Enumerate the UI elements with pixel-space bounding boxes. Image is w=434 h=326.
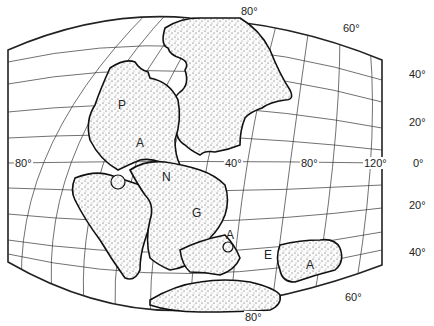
top-label: 80° <box>240 5 259 17</box>
continent-letter: A <box>306 258 314 272</box>
continent-letter: E <box>264 248 272 262</box>
longitude-label: 120° <box>363 157 388 169</box>
latitude-label: 40° <box>408 246 427 258</box>
longitude-label: 80° <box>300 157 319 169</box>
bottom-label: 60° <box>344 291 363 303</box>
latitude-label: 0° <box>412 157 425 169</box>
latitude-label: 20° <box>408 116 427 128</box>
continent-letter: G <box>192 206 201 220</box>
continent-letter: N <box>162 170 171 184</box>
longitude-label: 40° <box>224 157 243 169</box>
bottom-label: 80° <box>244 311 263 323</box>
latitude-label: 20° <box>408 199 427 211</box>
longitude-label: 80° <box>14 157 33 169</box>
latitude-label: 40° <box>408 68 427 80</box>
top-label: 60° <box>342 22 361 34</box>
continent-letter: P <box>118 98 126 112</box>
continent-letter: A <box>136 136 144 150</box>
continent-letter: A <box>226 228 234 242</box>
